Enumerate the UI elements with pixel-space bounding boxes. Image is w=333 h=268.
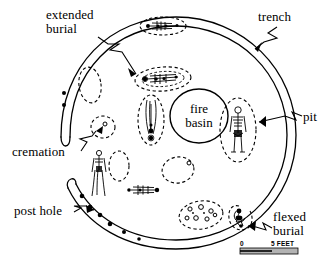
scale-bar <box>240 248 298 254</box>
leader-trench <box>255 27 277 49</box>
post-hole-dots <box>62 91 141 241</box>
post-hole-dot <box>98 213 103 218</box>
scale-start-label: 0 <box>240 240 244 247</box>
post-hole-dot <box>108 222 113 227</box>
label-trench: trench <box>258 10 291 24</box>
burial-bundle-center <box>138 95 164 145</box>
burial-extended-south <box>127 185 159 195</box>
label-fire-basin: fire basin <box>176 102 222 129</box>
post-hole-dot <box>137 237 141 241</box>
post-hole-dot <box>62 103 66 107</box>
site-plan-figure: extended burial trench pit cremation pos… <box>0 0 333 268</box>
cremation-pit-outline <box>91 116 115 138</box>
post-hole-dot <box>122 230 126 234</box>
artifact-cache-pit <box>177 198 224 232</box>
pit-outline <box>109 151 129 181</box>
label-cremation: cremation <box>12 145 65 159</box>
cremation-deposit <box>103 122 107 126</box>
leader-cremation <box>80 131 96 151</box>
trench-outline <box>61 17 296 249</box>
pit-outline <box>160 154 196 185</box>
scale-end-label: 5 FEET <box>271 240 294 247</box>
burial-extended-center <box>134 65 192 93</box>
post-hole-dot <box>80 194 85 199</box>
label-flexed-burial: flexed burial <box>273 210 306 237</box>
post-hole-dot <box>62 91 66 95</box>
burial-west <box>92 150 106 196</box>
burial-extended-east <box>220 98 256 162</box>
label-pit: pit <box>303 110 317 124</box>
label-post-hole: post hole <box>14 204 62 218</box>
label-extended-burial: extended burial <box>46 8 94 35</box>
pit-small-circle <box>187 161 191 165</box>
